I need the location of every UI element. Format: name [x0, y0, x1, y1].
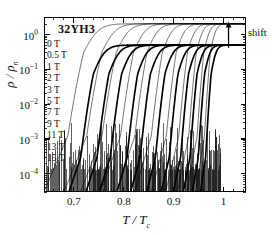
legend-item: 13 T — [47, 142, 67, 153]
x-axis-label: T / Tc — [0, 212, 272, 230]
sample-title: 32YH3 — [58, 22, 95, 37]
x-tick-label: 0.9 — [154, 195, 194, 207]
legend-item: 3 T — [47, 85, 67, 96]
legend-item: 1 T — [47, 62, 67, 73]
legend-item: 7 T — [47, 107, 67, 118]
legend-item: 5 T — [47, 96, 67, 107]
y-tick-label: 100 — [4, 28, 38, 42]
x-tick-label: 0.7 — [54, 195, 94, 207]
x-tick-label: 1 — [204, 195, 244, 207]
y-tick-label: 10−4 — [4, 167, 38, 181]
legend-item: 11 T — [47, 130, 67, 141]
resistivity-vs-temperature-figure: ρ / ρn T / Tc 32YH3 0 T0.5 T1 T2 T3 T5 T… — [0, 0, 272, 235]
shift-annotation-label: shift — [248, 27, 267, 38]
legend-item: 2 T — [47, 73, 67, 84]
y-tick-label: 10−2 — [4, 97, 38, 111]
legend-item: 0 T — [47, 39, 67, 50]
y-tick-label: 10−3 — [4, 132, 38, 146]
x-tick-label: 0.8 — [104, 195, 144, 207]
shift-arrow-icon — [226, 22, 232, 48]
legend-item: 9 T — [47, 119, 67, 130]
legend-item: 0.5 T — [47, 50, 67, 61]
field-legend: 0 T0.5 T1 T2 T3 T5 T7 T9 T11 T13 T15 T — [47, 39, 67, 164]
y-tick-label: 10−1 — [4, 62, 38, 76]
legend-item: 15 T — [47, 153, 67, 164]
